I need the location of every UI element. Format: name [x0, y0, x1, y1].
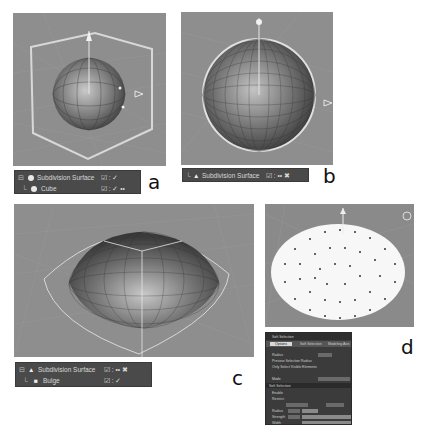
row-radius-2: Radius	[272, 409, 283, 413]
attribute-manager[interactable]: Soft Selection Options Soft Selection Mo…	[265, 332, 352, 425]
om-row-subdivision-surface[interactable]: ⊟ ▲ Subdivision Surface ☑ : •• ✖	[16, 364, 151, 375]
row-mode: Mode	[272, 377, 281, 381]
subdivision-icon: ▲	[193, 170, 199, 181]
cube-icon	[31, 186, 37, 192]
radius-field[interactable]	[318, 353, 332, 357]
object-manager-c[interactable]: ⊟ ▲ Subdivision Surface ☑ : •• ✖ └ ■ Bul…	[15, 362, 152, 387]
tab-modeling-axis[interactable]: Modeling Axis	[328, 342, 350, 346]
viewport-a[interactable]	[13, 13, 166, 166]
expand-icon[interactable]: ⊟	[18, 172, 24, 183]
panel-label-c: c	[232, 366, 243, 390]
object-flags[interactable]: ☑ : ✓ ••	[101, 183, 125, 194]
object-name: Bulge	[43, 375, 60, 386]
mode-dropdown[interactable]	[318, 377, 350, 381]
row-radius: Radius	[272, 353, 283, 357]
object-name: Subdivision Surface	[202, 170, 259, 181]
row-enable: Enable	[272, 391, 283, 395]
object-flags[interactable]: ☑ : ✓	[101, 172, 118, 183]
subdivision-icon: ▲	[28, 364, 34, 375]
attribute-title: Soft Selection	[272, 335, 294, 339]
falloff-field[interactable]	[286, 403, 308, 407]
bulged-sphere-render	[14, 204, 254, 357]
viewport-c[interactable]	[14, 204, 254, 357]
width-slider[interactable]	[302, 421, 352, 425]
object-manager-a[interactable]: ⊟ Subdivision Surface ☑ : ✓ └ Cube ☑ : ✓…	[14, 170, 141, 194]
sphere-with-cage-render	[13, 13, 166, 166]
collapse-icon[interactable]: ⊟	[19, 364, 25, 375]
object-flags[interactable]: ☑ : •• ✖	[266, 170, 290, 181]
subdivided-sphere-render	[181, 12, 333, 165]
object-manager-b[interactable]: └ ▲ Subdivision Surface ☑ : •• ✖	[182, 168, 309, 182]
row-restrict: Restrict	[272, 397, 284, 401]
row-visible: Only Select Visible Elements	[272, 365, 317, 369]
tab-options[interactable]: Options	[270, 342, 292, 346]
row-strength: Strength	[272, 415, 285, 419]
tab-soft-selection[interactable]: Soft Selection	[300, 342, 322, 346]
tree-line: └	[23, 375, 28, 386]
soft-selection-points-render	[265, 204, 414, 327]
viewport-b[interactable]	[181, 12, 333, 165]
object-flags[interactable]: ☑ : ✓	[104, 375, 121, 386]
tree-line: └	[22, 183, 27, 194]
panel-label-a: a	[148, 170, 160, 194]
object-flags[interactable]: ☑ : •• ✖	[104, 364, 128, 375]
row-preview: Preview Selection Radius	[272, 359, 312, 363]
om-row-cube[interactable]: └ Cube ☑ : ✓ ••	[15, 183, 140, 194]
om-row-bulge[interactable]: └ ■ Bulge ☑ : ✓	[16, 375, 151, 386]
row-width: Width	[272, 421, 281, 425]
radius-slider[interactable]	[302, 409, 318, 413]
radius-value-field[interactable]	[288, 409, 300, 413]
strength-slider[interactable]	[302, 415, 352, 419]
panel-label-b: b	[323, 164, 336, 188]
panel-label-d: d	[401, 335, 414, 359]
om-row-subdivision-surface[interactable]: ⊟ Subdivision Surface ☑ : ✓	[15, 172, 140, 183]
object-name: Subdivision Surface	[38, 364, 95, 375]
shape-field[interactable]	[326, 403, 344, 407]
bulge-icon: ■	[34, 375, 38, 386]
om-row-subdivision-surface[interactable]: └ ▲ Subdivision Surface ☑ : •• ✖	[183, 170, 308, 181]
object-name: Subdivision Surface	[37, 172, 94, 183]
section-soft-selection: Soft Selection	[269, 384, 291, 388]
viewport-d[interactable]	[265, 204, 414, 327]
subdivision-icon	[28, 175, 34, 181]
strength-value-field[interactable]	[288, 415, 300, 419]
tree-line: └	[186, 170, 191, 181]
object-name: Cube	[41, 183, 57, 194]
